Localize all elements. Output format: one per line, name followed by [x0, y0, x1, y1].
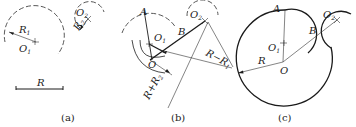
caption-b: (b) — [171, 112, 185, 123]
label-b: B — [308, 25, 316, 36]
label-r: R — [257, 55, 266, 66]
label-o1: O — [154, 32, 162, 43]
label-a: A — [139, 6, 147, 17]
label-o1: O — [268, 42, 276, 53]
svg-text:O1: O1 — [19, 43, 31, 55]
arrowhead-icon — [165, 69, 170, 73]
label-o2: O — [190, 9, 198, 20]
line-a-o — [144, 10, 152, 60]
label-a: A — [272, 3, 280, 14]
tangent-arc-construction-diagram: R1 O1 O2 R2 R (a) — [0, 0, 356, 127]
label-o2: O — [76, 7, 84, 18]
panel-b: A B O O1 O2 R−R1 R+R2 (b) — [122, 0, 233, 123]
label-r: R — [36, 77, 45, 88]
svg-text:R2: R2 — [71, 17, 87, 34]
svg-text:O2: O2 — [76, 7, 88, 19]
svg-text:R+R2: R+R2 — [141, 72, 165, 103]
caption-c: (c) — [278, 112, 292, 123]
panel-a: R1 O1 O2 R2 R (a) — [4, 2, 104, 123]
panel-c: A B O R O1 O2 (c) — [236, 3, 351, 123]
svg-text:O1: O1 — [268, 42, 280, 54]
label-o2: O — [323, 9, 331, 20]
line-a-o — [283, 10, 285, 62]
svg-text:O2: O2 — [323, 9, 335, 21]
arrowhead-icon — [9, 32, 14, 35]
svg-text:O1: O1 — [154, 32, 166, 44]
circle-o1-arc — [122, 13, 176, 33]
svg-text:R1: R1 — [18, 24, 30, 36]
label-o1: O — [19, 43, 27, 54]
dimension-line-r-plus-r2 — [168, 22, 208, 108]
circle-o1-arc — [4, 6, 64, 54]
caption-a: (a) — [61, 112, 75, 123]
label-o: O — [148, 59, 156, 70]
label-o: O — [280, 65, 288, 76]
svg-text:R−R1: R−R1 — [203, 47, 234, 71]
svg-text:O2: O2 — [190, 9, 202, 21]
label-b: B — [177, 26, 185, 37]
